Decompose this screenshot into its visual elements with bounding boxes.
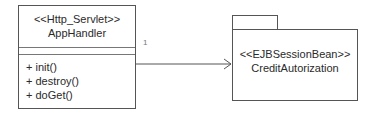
package-name: CreditAutorization xyxy=(233,61,357,75)
package-stereotype: <<EJBSessionBean>> xyxy=(233,47,357,61)
package-creditautorization[interactable]: <<EJBSessionBean>> CreditAutorization xyxy=(232,29,358,101)
package-tab xyxy=(232,15,278,30)
